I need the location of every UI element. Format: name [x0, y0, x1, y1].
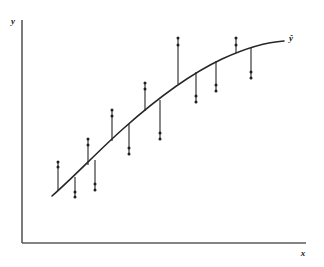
x-axis-label: x — [300, 248, 306, 258]
regression-figure: y x — [0, 0, 324, 267]
observation-dot — [94, 183, 97, 186]
observation-dot — [177, 37, 180, 40]
observation-dot — [250, 77, 253, 80]
observation-dot — [159, 138, 162, 141]
observation-dot — [57, 161, 60, 164]
observation-dot — [177, 44, 180, 47]
observation-dot — [57, 166, 60, 169]
residual-segment — [111, 109, 114, 142]
observation-dot — [128, 153, 131, 156]
residual-segment — [144, 82, 147, 112]
observation-dot — [111, 109, 114, 112]
observation-dot — [195, 95, 198, 98]
residual-segment — [57, 161, 60, 191]
residual-segment — [235, 37, 238, 54]
residual-segment — [195, 72, 198, 104]
observation-dot — [144, 88, 147, 91]
residual-segment — [74, 177, 77, 199]
residual-segment — [159, 100, 162, 141]
residual-segment — [94, 160, 97, 192]
observation-dot — [159, 132, 162, 135]
observation-dot — [94, 189, 97, 192]
residual-segments-group — [57, 37, 253, 199]
residual-segment — [250, 48, 253, 80]
observation-dot — [87, 144, 90, 147]
residual-segment — [177, 37, 180, 85]
observation-dot — [215, 90, 218, 93]
y-axis-label: y — [10, 16, 16, 26]
observation-dot — [195, 101, 198, 104]
fitted-curve — [52, 41, 284, 196]
observation-dot — [74, 196, 77, 199]
observation-dot — [128, 147, 131, 150]
observation-dot — [74, 191, 77, 194]
observation-dot — [235, 44, 238, 47]
residual-segment — [128, 124, 131, 156]
residual-segment — [215, 61, 218, 93]
observation-dot — [250, 71, 253, 74]
observation-dot — [144, 82, 147, 85]
plot-canvas: y x — [0, 0, 324, 267]
observation-dot — [215, 84, 218, 87]
observation-dot — [111, 115, 114, 118]
observation-dot — [235, 37, 238, 40]
axes-group — [22, 20, 306, 243]
observation-dot — [87, 138, 90, 141]
fitted-curve-label: ŷ — [288, 33, 294, 43]
